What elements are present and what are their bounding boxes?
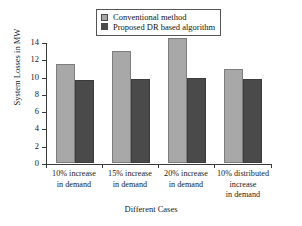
x-axis-title: Different Cases <box>0 204 302 214</box>
bar-group-4 <box>214 42 271 163</box>
x-tick-2 <box>158 164 159 168</box>
bar-group-1 <box>46 42 102 163</box>
y-tick-label-4: 4 <box>35 123 39 134</box>
plot-area: 14 12 10 8 6 4 2 0 <box>46 43 272 164</box>
y-tick-label-8: 8 <box>35 89 39 100</box>
y-tick-label-0: 0 <box>35 158 39 169</box>
y-tick-label-6: 6 <box>35 106 39 117</box>
legend-swatch-proposed-icon <box>101 23 108 30</box>
y-tick-label-10: 10 <box>31 72 40 83</box>
y-tick-label-2: 2 <box>35 141 39 152</box>
bar-group-3 <box>158 42 214 163</box>
bar-proposed-2 <box>131 79 150 163</box>
x-category-label-4: 10% distributed increase in demand <box>212 169 274 201</box>
x-tick-3 <box>214 164 215 168</box>
bar-proposed-3 <box>187 78 206 163</box>
x-axis-line <box>46 164 272 165</box>
bar-proposed-4 <box>243 79 262 163</box>
x-tick-1 <box>102 164 103 168</box>
bar-conventional-1 <box>56 64 75 163</box>
legend-item-conventional: Conventional method <box>101 13 215 22</box>
x-tick-0 <box>46 164 47 168</box>
legend-item-proposed: Proposed DR based algorithm <box>101 23 215 32</box>
y-tick-label-14: 14 <box>31 37 40 48</box>
x-category-label-1: 10% increase in demand <box>44 169 104 190</box>
bar-chart-figure: Conventional method Proposed DR based al… <box>0 0 302 226</box>
y-axis-title: System Losses in MW <box>12 12 22 122</box>
legend-label-conventional: Conventional method <box>113 13 186 22</box>
x-category-label-3: 20% increase in demand <box>156 169 216 190</box>
x-tick-4 <box>271 164 272 168</box>
legend-label-proposed: Proposed DR based algorithm <box>113 23 215 32</box>
chart-legend: Conventional method Proposed DR based al… <box>96 9 221 36</box>
bar-conventional-3 <box>168 38 187 163</box>
bar-group-2 <box>102 42 158 163</box>
legend-swatch-conventional-icon <box>101 14 108 21</box>
bar-conventional-4 <box>224 69 243 163</box>
y-tick-label-12: 12 <box>31 54 40 65</box>
x-category-label-2: 15% increase in demand <box>100 169 160 190</box>
bar-proposed-1 <box>75 80 94 163</box>
bar-conventional-2 <box>112 51 131 163</box>
